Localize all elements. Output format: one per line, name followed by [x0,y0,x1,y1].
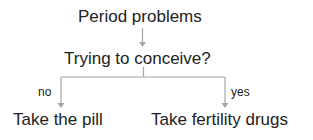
decision-diagram: Period problems Trying to conceive? no y… [0,0,313,140]
arrowhead-down-icon [58,103,65,108]
arrowhead-down-icon [139,42,146,47]
arrowhead-down-icon [222,103,229,108]
edge-label-yes: yes [231,85,250,99]
node-take-fertility-drugs: Take fertility drugs [151,110,288,130]
node-trying-to-conceive: Trying to conceive? [64,49,211,69]
node-take-the-pill: Take the pill [13,110,103,130]
edge-label-no: no [38,85,51,99]
node-period-problems: Period problems [78,7,202,27]
